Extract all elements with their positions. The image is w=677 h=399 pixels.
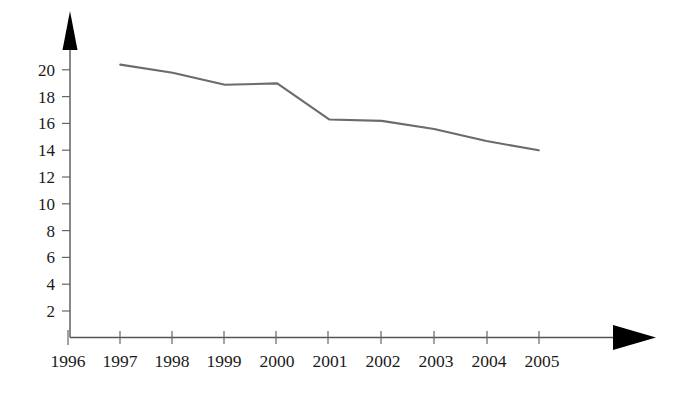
y-tick-label-18: 18 [38,88,55,107]
x-tick-label-2003: 2003 [419,351,454,371]
y-tick-marks [62,70,70,311]
y-tick-label-6: 6 [47,248,56,267]
x-tick-label-2004: 2004 [472,351,507,371]
x-tick-label-1999: 1999 [207,351,242,371]
y-tick-label-14: 14 [38,141,56,160]
x-tick-label-2002: 2002 [366,351,401,371]
y-tick-label-16: 16 [38,114,55,133]
x-tick-labels: 1996 1997 1998 1999 2000 2001 2002 2003 … [51,351,560,371]
x-tick-label-1997: 1997 [103,351,138,371]
y-tick-label-4: 4 [47,275,56,294]
y-tick-label-20: 20 [38,61,55,80]
y-tick-label-2: 2 [47,302,56,321]
x-axis-arrow-icon [613,325,656,350]
y-tick-label-10: 10 [38,195,55,214]
y-tick-labels: 2 4 6 8 10 12 14 16 18 20 [38,61,56,321]
chart-canvas: 2 4 6 8 10 12 14 16 18 20 1996 1 [0,0,677,399]
x-tick-label-2005: 2005 [525,351,560,371]
x-tick-label-1998: 1998 [155,351,190,371]
x-tick-label-2001: 2001 [313,351,348,371]
line-chart-figure: 2 4 6 8 10 12 14 16 18 20 1996 1 [0,0,677,399]
y-axis-arrow-icon [63,11,78,50]
x-tick-label-1996: 1996 [51,351,86,371]
y-tick-label-12: 12 [38,168,55,187]
x-tick-label-2000: 2000 [260,351,295,371]
y-tick-label-8: 8 [47,222,56,241]
data-series-line [120,65,538,151]
